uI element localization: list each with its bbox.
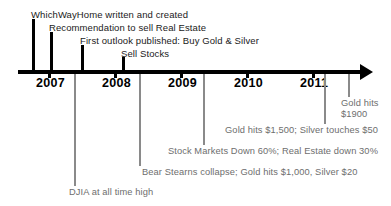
event-label-first-outlook: First outlook published: Buy Gold & Silv…: [80, 35, 259, 46]
event-label-bear-stearns: Bear Stearns collapse; Gold hits $1,000,…: [142, 167, 357, 177]
event-leader-bear-stearns: [139, 74, 141, 166]
event-tick-first-outlook: [81, 45, 84, 74]
event-leader-gold-1500: [324, 74, 326, 124]
timeline-axis-arrow-icon: [360, 64, 373, 80]
event-label-gold-1500: Gold hits $1,500; Silver touches $50: [178, 125, 378, 135]
year-label-2008: 2008: [102, 76, 131, 90]
event-label-markets-down: Stock Markets Down 60%; Real Estate down…: [158, 146, 378, 156]
year-label-2010: 2010: [234, 76, 263, 90]
year-label-2009: 2009: [168, 76, 197, 90]
event-label-gold-1900-line1: Gold hits: [341, 98, 379, 109]
event-leader-gold-1900: [348, 74, 350, 97]
event-label-whichwayhome: WhichWayHome written and created: [31, 9, 188, 20]
event-tick-whichwayhome: [32, 19, 35, 74]
timeline-infographic: WhichWayHome written and created Recomme…: [0, 0, 391, 206]
event-label-sell-real-estate: Recommendation to sell Real Estate: [49, 22, 206, 33]
event-label-gold-1900-line2: $1900: [341, 109, 367, 120]
event-label-djia-high: DJIA at all time high: [69, 187, 153, 197]
year-label-2007: 2007: [36, 76, 65, 90]
event-leader-djia-high: [74, 74, 76, 186]
event-tick-sell-real-estate: [50, 32, 53, 74]
event-label-sell-stocks: Sell Stocks: [121, 48, 169, 59]
event-tick-sell-stocks: [122, 57, 125, 74]
